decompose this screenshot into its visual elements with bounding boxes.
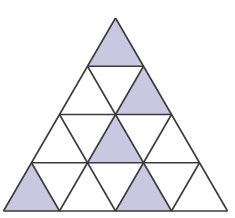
shaded-triangle bbox=[4, 163, 60, 211]
triangle-cell bbox=[60, 66, 116, 114]
triangle-cell bbox=[144, 115, 200, 163]
triangle-cell bbox=[172, 163, 228, 211]
grid-line bbox=[172, 163, 200, 211]
triangle-cell bbox=[32, 115, 88, 163]
shaded-triangle bbox=[116, 163, 172, 211]
triangle-cell bbox=[60, 163, 116, 211]
shaded-triangle bbox=[116, 66, 172, 114]
shaded-triangle bbox=[88, 115, 144, 163]
triangle-grid-diagram bbox=[0, 0, 235, 218]
shaded-triangle bbox=[88, 18, 144, 66]
